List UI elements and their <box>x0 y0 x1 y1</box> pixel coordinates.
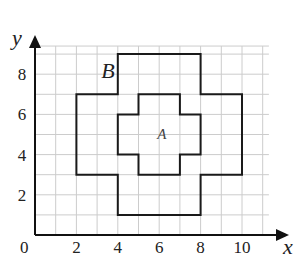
grid-lines <box>35 46 269 235</box>
shape-b-label: B <box>101 58 114 83</box>
y-tick-label: 4 <box>18 146 27 165</box>
x-tick-label: 4 <box>114 238 123 257</box>
x-tick-label: 2 <box>72 238 81 257</box>
y-tick-label: 8 <box>18 65 27 84</box>
x-tick-label: 6 <box>155 238 164 257</box>
x-axis-label: x <box>282 234 293 259</box>
y-axis-label: y <box>10 25 22 50</box>
shape-a-label: A <box>156 126 167 142</box>
x-tick-label: 10 <box>234 238 251 257</box>
x-tick-label: 8 <box>196 238 205 257</box>
shape-labels: BA <box>101 58 167 141</box>
coordinate-diagram: x y 0 2468102468 BA <box>0 0 300 264</box>
y-tick-label: 6 <box>18 105 27 124</box>
axes: x y 0 <box>10 25 293 259</box>
origin-label: 0 <box>20 238 29 257</box>
y-axis-arrow-icon <box>29 35 41 48</box>
y-tick-label: 2 <box>18 186 27 205</box>
